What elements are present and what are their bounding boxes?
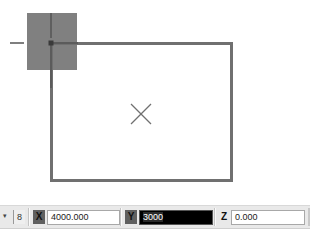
z-axis-label: Z <box>218 210 230 224</box>
z-coordinate-input[interactable]: 0.000 <box>231 210 305 225</box>
x-coordinate-input[interactable]: 4000.000 <box>47 210 120 225</box>
y-coordinate-input[interactable]: 3000 <box>139 210 213 225</box>
snap-button[interactable]: 8 <box>13 210 25 224</box>
coordinate-input-toolbar: ▾ 8 X 4000.000 Y 3000 Z 0.000 <box>0 205 310 229</box>
toolbar-end-grip <box>308 208 310 226</box>
canvas-graphics <box>0 0 318 198</box>
center-x-marker-icon <box>131 104 151 124</box>
drawing-canvas[interactable] <box>0 0 318 198</box>
drawn-rectangle[interactable] <box>52 44 232 181</box>
y-coordinate-value: 3000 <box>143 212 163 222</box>
x-axis-label: X <box>33 210 45 224</box>
toolbar-separator <box>28 208 30 226</box>
y-axis-label: Y <box>125 210 137 224</box>
toolbar-separator <box>214 208 216 226</box>
overflow-arrow-icon[interactable]: ▾ <box>3 212 7 220</box>
toolbar-separator <box>120 208 122 226</box>
